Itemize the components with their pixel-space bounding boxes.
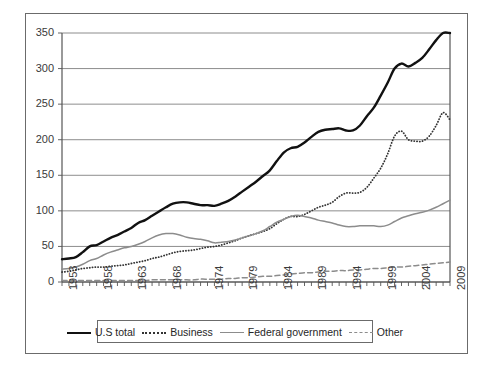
x-axis-label: 1979 [247,266,259,290]
y-axis-label: 100 [24,204,54,216]
solid-thick-line-icon [67,328,91,336]
x-axis-label: 2009 [455,266,467,290]
series-line [62,32,450,259]
dotted-line-icon [142,328,166,336]
y-axis-label: 50 [24,239,54,251]
figure: 050100150200250300350 195319581963196819… [0,0,487,371]
x-axis-label: 1953 [67,266,79,290]
y-axis-label: 0 [24,275,54,287]
y-axis-label: 350 [24,26,54,38]
y-axis-label: 250 [24,97,54,109]
dashed-line-icon [349,328,373,336]
solid-gray-line-icon [220,328,244,336]
legend-item[interactable]: Federal government [220,326,342,338]
legend-label: Business [170,326,213,338]
legend-item[interactable]: Business [142,326,213,338]
x-axis-label: 1984 [282,266,294,290]
x-axis-label: 1963 [136,266,148,290]
legend-item[interactable]: Other [349,326,403,338]
y-axis-label: 200 [24,133,54,145]
y-axis-label: 300 [24,62,54,74]
legend-item[interactable]: U.S total [67,326,135,338]
x-axis-label: 1994 [351,266,363,290]
x-axis-label: 1999 [386,266,398,290]
x-axis-label: 1958 [102,266,114,290]
x-axis-label: 1974 [213,266,225,290]
x-axis-label: 1968 [171,266,183,290]
x-axis-label: 1989 [316,266,328,290]
x-axis-label: 2004 [420,266,432,290]
y-axis-label: 150 [24,168,54,180]
legend-label: Other [377,326,403,338]
chart-legend: U.S totalBusinessFederal governmentOther [97,320,373,343]
legend-label: Federal government [248,326,342,338]
legend-label: U.S total [95,326,135,338]
chart-plot [0,0,487,371]
series-line [62,113,450,272]
